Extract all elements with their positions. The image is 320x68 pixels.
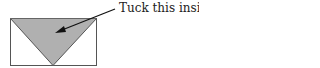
annotation-label: Tuck this inside xyxy=(119,1,199,15)
